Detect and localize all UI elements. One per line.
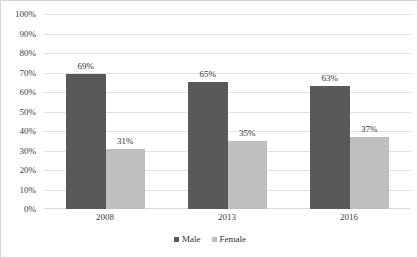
bar-group-2008: 69% 31% xyxy=(66,14,145,209)
y-axis-tick-label: 0% xyxy=(0,205,36,214)
bar-group-2013: 65% 35% xyxy=(188,14,267,209)
bar-group-2016: 63% 37% xyxy=(310,14,389,209)
y-axis-tick-label: 10% xyxy=(0,185,36,194)
legend-label: Female xyxy=(220,235,247,244)
bar-value-label: 31% xyxy=(117,137,134,146)
legend-label: Male xyxy=(182,235,201,244)
bar-female[interactable]: 37% xyxy=(350,137,390,209)
y-axis-tick-label: 50% xyxy=(0,107,36,116)
bar-value-label: 35% xyxy=(239,129,256,138)
y-axis-tick-label: 60% xyxy=(0,88,36,97)
y-axis-tick-label: 80% xyxy=(0,49,36,58)
x-axis-tick-label: 2016 xyxy=(340,213,358,222)
legend-item-female[interactable]: Female xyxy=(212,235,247,244)
x-axis-tick-label: 2008 xyxy=(96,213,114,222)
legend-swatch-icon xyxy=(174,237,179,242)
bar-male[interactable]: 69% xyxy=(66,74,106,209)
bar-value-label: 63% xyxy=(322,74,339,83)
bar-chart-figure: 100% 90% 80% 70% 60% 50% 40% 30% 20% 10%… xyxy=(0,0,418,258)
bar-female[interactable]: 35% xyxy=(228,141,268,209)
y-axis-tick-label: 30% xyxy=(0,146,36,155)
y-axis-tick-label: 20% xyxy=(0,166,36,175)
bar-value-label: 65% xyxy=(200,70,217,79)
bar-female[interactable]: 31% xyxy=(106,149,146,209)
y-axis-tick-label: 40% xyxy=(0,127,36,136)
plot-area: 69% 31% 65% 35% 63% 37% xyxy=(44,14,411,209)
y-axis-tick-label: 100% xyxy=(0,10,36,19)
bar-value-label: 37% xyxy=(361,125,378,134)
y-axis-tick-label: 90% xyxy=(0,29,36,38)
chart-legend: Male Female xyxy=(1,235,418,244)
bar-male[interactable]: 63% xyxy=(310,86,350,209)
y-axis-tick-label: 70% xyxy=(0,68,36,77)
x-axis-tick-label: 2013 xyxy=(218,213,236,222)
legend-item-male[interactable]: Male xyxy=(174,235,201,244)
bar-value-label: 69% xyxy=(78,62,95,71)
bar-male[interactable]: 65% xyxy=(188,82,228,209)
legend-swatch-icon xyxy=(212,237,217,242)
